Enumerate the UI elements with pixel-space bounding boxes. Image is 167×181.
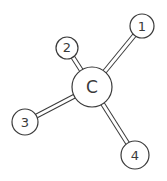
atom-1-label: 1 xyxy=(138,19,146,34)
atom-4-label: 4 xyxy=(131,148,139,163)
atom-3: 3 xyxy=(12,109,38,135)
atom-2: 2 xyxy=(56,37,78,59)
carbon-atom: C xyxy=(72,67,112,107)
atom-4: 4 xyxy=(121,141,149,169)
tetrahedral-carbon-diagram: 1 2 3 4 C xyxy=(0,0,167,181)
atom-2-label: 2 xyxy=(63,40,71,55)
atom-1: 1 xyxy=(130,14,154,38)
atom-3-label: 3 xyxy=(21,115,29,130)
carbon-label: C xyxy=(86,77,98,97)
